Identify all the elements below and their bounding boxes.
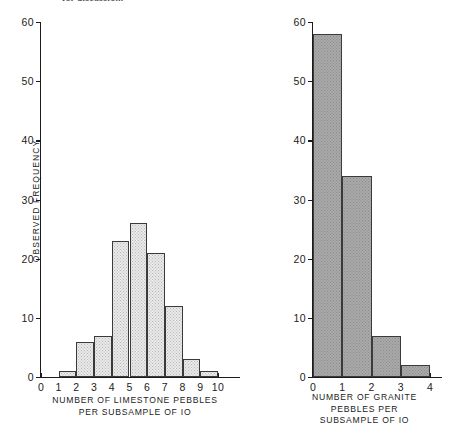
x-tick-label: 2 xyxy=(73,381,79,393)
x-axis-line-limestone xyxy=(40,377,240,378)
y-tick-label: 20 xyxy=(278,253,306,265)
y-tick-label: 60 xyxy=(278,16,306,28)
x-tick-label: 4 xyxy=(109,381,115,393)
x-tick-label: 6 xyxy=(144,381,150,393)
bar-series-limestone xyxy=(41,22,218,377)
figure-two-histograms: OBSERVED FREQUENCY 0102030405060 0123456… xyxy=(0,0,452,426)
bar xyxy=(401,365,430,377)
bar xyxy=(183,359,201,377)
x-axis-caption-line: NUMBER OF LIMESTONE PEBBLES xyxy=(40,395,230,407)
bar xyxy=(200,371,218,377)
x-tick xyxy=(430,373,431,378)
y-tick-label: 10 xyxy=(6,312,34,324)
y-tick-label: 50 xyxy=(278,75,306,87)
bar xyxy=(59,371,77,377)
y-tick-label: 20 xyxy=(6,253,34,265)
x-tick-label: 0 xyxy=(38,381,44,393)
y-tick-label: 30 xyxy=(6,194,34,206)
chart-panel-limestone: OBSERVED FREQUENCY 0102030405060 0123456… xyxy=(0,0,260,426)
x-axis-caption-limestone: NUMBER OF LIMESTONE PEBBLESPER SUBSAMPLE… xyxy=(40,395,230,418)
chart-panel-granite: 0102030405060 01234 NUMBER OF GRANITEPEB… xyxy=(260,0,452,426)
bar-series-granite xyxy=(313,22,430,377)
bar xyxy=(372,336,401,377)
x-tick-label: 10 xyxy=(212,381,224,393)
y-tick-label: 60 xyxy=(6,16,34,28)
bar xyxy=(313,34,342,377)
x-tick xyxy=(218,373,219,378)
bar xyxy=(147,253,165,377)
bar xyxy=(165,306,183,377)
bar xyxy=(94,336,112,377)
x-axis-caption-line: SUBSAMPLE OF IO xyxy=(282,415,447,426)
y-tick-label: 0 xyxy=(278,371,306,383)
x-tick-label: 8 xyxy=(179,381,185,393)
y-tick-label: 10 xyxy=(278,312,306,324)
y-tick-label: 40 xyxy=(278,134,306,146)
y-tick-label: 0 xyxy=(6,371,34,383)
bar xyxy=(342,176,371,377)
y-tick-label: 40 xyxy=(6,134,34,146)
x-tick-label: 9 xyxy=(197,381,203,393)
x-axis-caption-line: PEBBLES PER xyxy=(282,404,447,416)
y-tick-label: 30 xyxy=(278,194,306,206)
x-tick-label: 7 xyxy=(162,381,168,393)
y-tick-label: 50 xyxy=(6,75,34,87)
x-tick-label: 5 xyxy=(126,381,132,393)
x-tick-label: 3 xyxy=(91,381,97,393)
bar xyxy=(130,223,148,377)
bar xyxy=(112,241,130,377)
x-axis-caption-line: NUMBER OF GRANITE xyxy=(282,392,447,404)
x-axis-caption-line: PER SUBSAMPLE OF IO xyxy=(40,407,230,419)
x-axis-caption-granite: NUMBER OF GRANITEPEBBLES PERSUBSAMPLE OF… xyxy=(282,392,447,426)
x-tick-label: 1 xyxy=(56,381,62,393)
x-axis-line-granite xyxy=(312,377,442,378)
bar xyxy=(76,342,94,378)
